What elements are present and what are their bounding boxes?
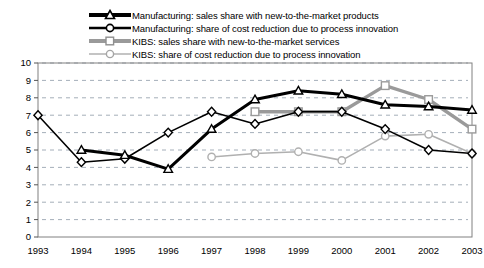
y-axis-label: 2 xyxy=(26,197,31,208)
y-axis-label: 0 xyxy=(26,231,31,242)
y-axis-label: 5 xyxy=(26,144,31,155)
x-axis-label: 2001 xyxy=(375,245,396,256)
legend-label: Manufacturing: sales share with new-to-t… xyxy=(132,10,379,21)
x-axis-label: 1998 xyxy=(244,245,265,256)
chart-legend: Manufacturing: sales share with new-to-t… xyxy=(88,9,480,61)
series-0 xyxy=(77,86,476,172)
line-chart: Manufacturing: sales share with new-to-t… xyxy=(0,0,484,268)
data-point-marker xyxy=(338,157,345,164)
y-axis-label: 3 xyxy=(26,179,31,190)
x-axis-label: 1995 xyxy=(114,245,135,256)
y-axis-label: 4 xyxy=(26,162,31,173)
y-axis-label: 9 xyxy=(26,75,31,86)
x-axis-label: 1999 xyxy=(288,245,309,256)
legend-item-manufacturing-sales-share: Manufacturing: sales share with new-to-t… xyxy=(88,9,480,21)
y-axis-label: 8 xyxy=(26,92,31,103)
data-point-marker xyxy=(251,108,259,116)
legend-item-manufacturing-cost-reduction: Manufacturing: share of cost reduction d… xyxy=(88,22,480,34)
legend-item-kibs-sales-share: KIBS: sales share with new-to-the-market… xyxy=(88,35,480,47)
data-point-marker xyxy=(208,153,215,160)
data-point-marker xyxy=(425,131,432,138)
data-point-marker xyxy=(468,125,476,133)
x-axis-label: 1996 xyxy=(158,245,179,256)
data-point-marker xyxy=(381,82,389,90)
x-axis-label: 2000 xyxy=(331,245,352,256)
legend-marker-triangle-black-icon xyxy=(88,9,132,21)
data-point-marker xyxy=(208,107,216,116)
data-point-marker xyxy=(251,120,259,129)
data-point-marker xyxy=(295,148,302,155)
y-axis-label: 1 xyxy=(26,214,31,225)
x-axis-label: 2003 xyxy=(461,245,482,256)
series-3 xyxy=(208,131,476,165)
legend-marker-square-gray-icon xyxy=(88,35,132,47)
legend-marker-diamond-black-icon xyxy=(88,22,132,34)
data-point-marker xyxy=(164,128,172,137)
legend-label: KIBS: sales share with new-to-the-market… xyxy=(132,36,339,47)
legend-label: Manufacturing: share of cost reduction d… xyxy=(132,23,398,34)
data-point-marker xyxy=(425,146,433,155)
data-point-marker xyxy=(251,150,258,157)
series-line xyxy=(81,91,472,169)
y-axis-label: 10 xyxy=(20,58,31,68)
x-axis-label: 1997 xyxy=(201,245,222,256)
x-axis-label: 1993 xyxy=(27,245,48,256)
plot-svg: 0123456789101993199419951996199719981999… xyxy=(0,58,484,268)
x-axis-label: 1994 xyxy=(71,245,92,256)
y-axis-label: 6 xyxy=(26,127,31,138)
x-axis-label: 2002 xyxy=(418,245,439,256)
y-axis-label: 7 xyxy=(26,110,31,121)
plot-area: 0123456789101993199419951996199719981999… xyxy=(0,58,484,268)
